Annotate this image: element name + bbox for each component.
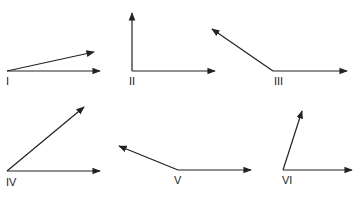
ray-arrow-icon — [7, 52, 94, 71]
ray-arrow-icon — [119, 146, 178, 170]
angle-label: III — [274, 75, 283, 87]
angle-label: I — [6, 75, 9, 87]
angle-ii: II — [129, 13, 215, 87]
angle-vi: VI — [282, 111, 352, 186]
ray-arrow-icon — [212, 29, 273, 71]
angle-label: IV — [6, 176, 17, 188]
angle-v: V — [119, 146, 251, 186]
angle-diagram: IIIIIIIVVVI — [0, 0, 361, 201]
angle-label: V — [174, 174, 182, 186]
angle-iii: III — [212, 29, 347, 87]
angle-i: I — [6, 52, 100, 87]
ray-arrow-icon — [7, 107, 84, 171]
ray-arrow-icon — [283, 111, 302, 170]
angle-iv: IV — [6, 107, 100, 188]
angle-label: II — [129, 75, 135, 87]
angle-label: VI — [282, 174, 292, 186]
